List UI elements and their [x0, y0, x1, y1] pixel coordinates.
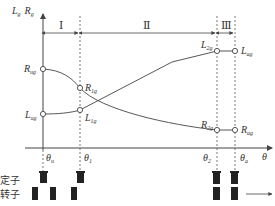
region-1-label: Ⅰ	[59, 19, 63, 31]
point-R-ug	[40, 66, 45, 71]
label-L-2g: L2g	[200, 39, 213, 51]
tick-theta-u: θu	[46, 152, 54, 164]
label-L-ug: Lug	[24, 109, 37, 121]
point-R-1g	[77, 85, 82, 90]
label-R-2g: R2g	[200, 119, 213, 131]
tick-theta-2: θ2	[203, 152, 211, 164]
point-R-2g	[214, 127, 219, 132]
point-L-ag	[232, 48, 237, 53]
label-R-1g: R1g	[84, 82, 97, 94]
rotor-poles	[32, 187, 238, 200]
stator-pole	[40, 172, 47, 183]
inductance-curve	[43, 51, 235, 114]
stator-poles	[39, 171, 239, 184]
rotor-pole	[231, 187, 238, 200]
point-R-ag	[232, 127, 237, 132]
rotor-pole	[50, 187, 56, 200]
stator-pole	[213, 172, 220, 184]
point-L-ug	[40, 111, 45, 116]
rotor-pole	[213, 187, 220, 200]
rotor-pole	[71, 187, 77, 200]
region-3-label: Ⅲ	[221, 19, 232, 31]
y-axis-label: LgRg	[11, 5, 34, 17]
stator-pole	[77, 172, 84, 183]
label-L-1g: L1g	[84, 112, 97, 124]
tick-theta-1: θ1	[84, 152, 92, 164]
stator-pole	[231, 172, 238, 184]
x-axis-label: θ	[262, 151, 267, 162]
stator-label: 定子	[0, 174, 20, 186]
label-L-ag: Lag	[240, 45, 253, 57]
rotor-label: 转子	[0, 188, 20, 200]
tick-theta-a: θa	[240, 152, 248, 164]
region-2-label: Ⅱ	[143, 19, 150, 31]
rotor-pole	[32, 187, 38, 200]
point-L-2g	[214, 48, 219, 53]
point-L-1g	[77, 107, 82, 112]
reluctance-diagram: LgRg θ Ⅰ Ⅱ Ⅲ Rug Lug R1g L1g L2g Lag R2g…	[0, 0, 275, 206]
label-R-ug: Rug	[23, 63, 36, 75]
label-R-ag: Rag	[240, 124, 253, 136]
